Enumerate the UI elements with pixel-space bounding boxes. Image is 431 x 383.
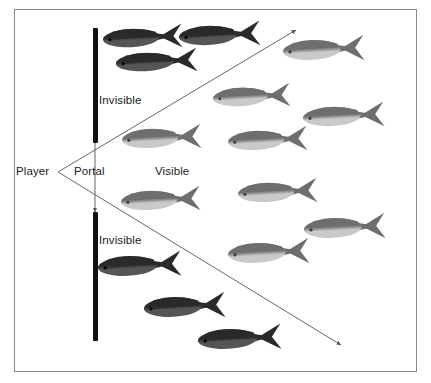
fish-light-9 bbox=[228, 236, 309, 269]
fish-graphic bbox=[121, 184, 200, 216]
visible-label: Visible bbox=[155, 165, 189, 177]
fish-light-7 bbox=[238, 176, 317, 208]
wall-upper bbox=[93, 28, 98, 143]
fish-graphic bbox=[283, 33, 364, 66]
diagram-scene: PlayerPortalVisibleInvisibleInvisible bbox=[0, 0, 431, 383]
figure-root: PlayerPortalVisibleInvisibleInvisible bbox=[0, 0, 431, 383]
fish-light-1 bbox=[283, 33, 364, 66]
fish-graphic bbox=[303, 100, 384, 132]
player-label: Player bbox=[16, 165, 49, 177]
fish-light-6 bbox=[121, 184, 200, 216]
fish-graphic bbox=[213, 81, 290, 112]
wall-lower bbox=[93, 212, 98, 341]
fish-graphic bbox=[98, 249, 181, 282]
fish-dark-5 bbox=[144, 290, 225, 323]
fish-graphic bbox=[238, 176, 317, 208]
fish-light-8 bbox=[304, 211, 385, 244]
portal-label: Portal bbox=[74, 165, 105, 177]
fish-light-4 bbox=[228, 124, 307, 156]
fish-graphic bbox=[228, 236, 309, 269]
fish-light-2 bbox=[213, 81, 290, 112]
invisible-label-top: Invisible bbox=[99, 94, 141, 106]
fish-graphic bbox=[228, 124, 307, 156]
fish-dark-4 bbox=[98, 249, 181, 282]
fish-light-3 bbox=[303, 100, 384, 132]
fish-graphic bbox=[116, 46, 197, 77]
fish-dark-3 bbox=[116, 46, 197, 77]
fish-graphic bbox=[144, 290, 225, 323]
fish-graphic bbox=[122, 122, 201, 154]
invisible-label-bottom: Invisible bbox=[99, 234, 141, 246]
fish-light-5 bbox=[122, 122, 201, 154]
fish-graphic bbox=[198, 322, 281, 355]
fish-graphic bbox=[304, 211, 385, 244]
fish-dark-6 bbox=[198, 322, 281, 355]
